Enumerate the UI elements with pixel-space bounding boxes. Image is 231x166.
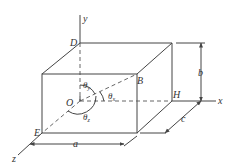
- label-c: c: [181, 113, 186, 124]
- label-z: z: [11, 153, 16, 164]
- label-y: y: [82, 13, 88, 24]
- label-b: b: [198, 67, 203, 78]
- label-O: O: [66, 97, 73, 108]
- z-axis-hidden: [42, 101, 80, 133]
- label-a: a: [73, 138, 78, 149]
- label-theta-z: θz: [83, 112, 90, 123]
- edge-top-right: [137, 43, 172, 74]
- label-E: E: [33, 127, 40, 138]
- label-D: D: [69, 37, 78, 48]
- box-diagram: y x z D B H O E a b c θy θx θz: [0, 0, 231, 166]
- arc-theta-x: [100, 92, 104, 101]
- label-x: x: [217, 95, 223, 106]
- label-B: B: [137, 75, 143, 86]
- label-H: H: [172, 89, 181, 100]
- label-theta-x: θx: [108, 91, 115, 102]
- label-theta-y: θy: [83, 80, 90, 91]
- front-face: [42, 74, 137, 133]
- dim-a-ext: [124, 136, 137, 146]
- edge-bottom-right: [137, 101, 172, 133]
